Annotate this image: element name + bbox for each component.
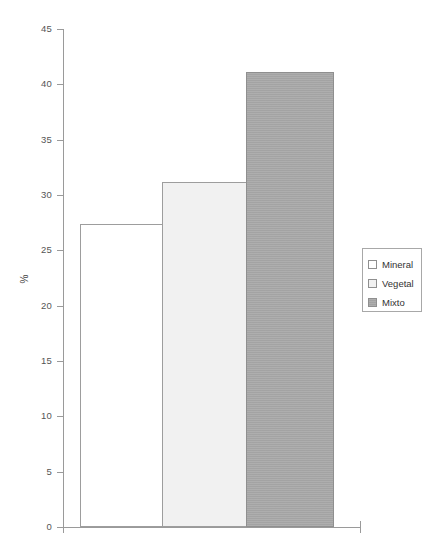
y-axis-title: % (16, 267, 34, 291)
y-axis-tick-label: 0 (8, 522, 52, 532)
y-axis-tick-label: 40 (8, 79, 52, 89)
y-axis-tick-label: 35 (8, 135, 52, 145)
y-tick-label-wrap: 15 (0, 356, 52, 366)
y-tick-label-wrap: 25 (0, 245, 52, 255)
plot-area (63, 29, 360, 527)
legend-label-mixto: Mixto (382, 298, 405, 308)
y-tick-label-wrap: 45 (0, 24, 52, 34)
y-tick-label-wrap: 0 (0, 522, 52, 532)
bar-chart: 051015202530354045 % Mineral Vegetal Mix… (0, 0, 438, 555)
y-tick-label-wrap: 10 (0, 411, 52, 421)
y-tick-label-wrap: 30 (0, 190, 52, 200)
y-tick-0 (57, 527, 64, 528)
y-tick-label-wrap: 40 (0, 79, 52, 89)
y-tick-label-wrap: 35 (0, 135, 52, 145)
legend-swatch-icon-mineral (368, 260, 377, 269)
legend-item-mineral: Mineral (368, 256, 421, 273)
legend-item-vegetal: Vegetal (368, 275, 421, 292)
x-axis-line (63, 527, 361, 528)
x-axis-end-tick (360, 521, 361, 533)
y-axis-tick-label: 30 (8, 190, 52, 200)
y-tick-label-wrap: 5 (0, 467, 52, 477)
y-axis-tick-label: 20 (8, 301, 52, 311)
y-axis-tick-label: 5 (8, 467, 52, 477)
legend-swatch-icon-mixto (368, 298, 377, 307)
y-axis-tick-label: 25 (8, 245, 52, 255)
y-axis-tick-label: 15 (8, 356, 52, 366)
bar-mineral (80, 224, 163, 527)
bar-vegetal (162, 182, 247, 527)
y-axis-tick-label: 45 (8, 24, 52, 34)
legend-label-vegetal: Vegetal (382, 279, 414, 289)
legend-item-mixto: Mixto (368, 294, 421, 311)
legend-swatch-icon-vegetal (368, 279, 377, 288)
bar-mixto (246, 72, 334, 527)
y-tick-label-wrap: 20 (0, 301, 52, 311)
y-axis-tick-label: 10 (8, 411, 52, 421)
legend: Mineral Vegetal Mixto (362, 248, 422, 312)
legend-label-mineral: Mineral (382, 260, 413, 270)
